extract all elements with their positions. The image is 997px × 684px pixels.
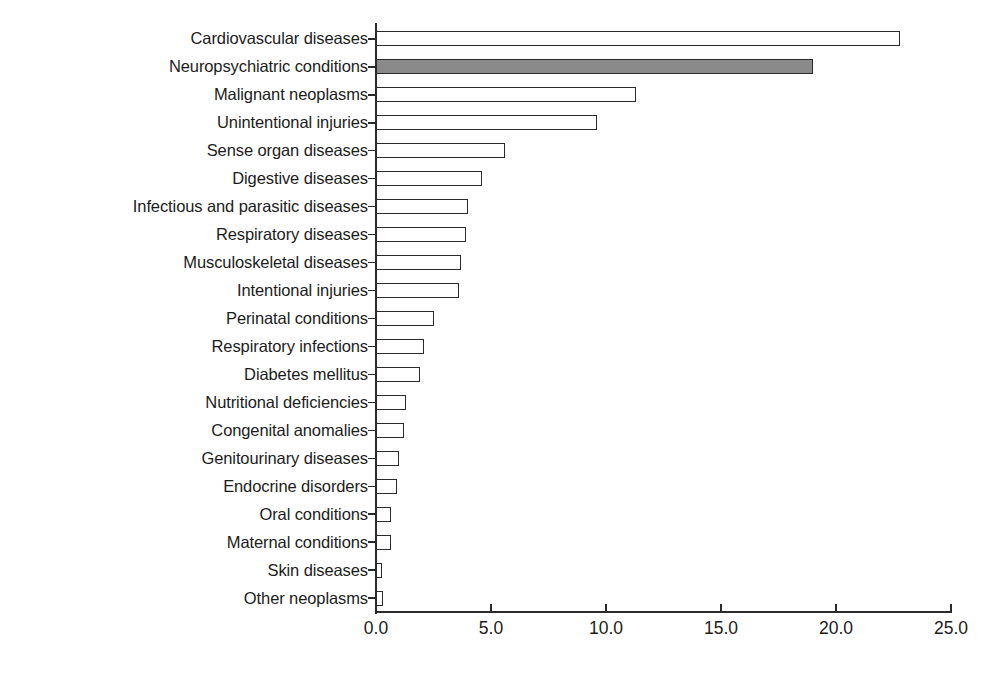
- category-label: Diabetes mellitus: [8, 365, 368, 384]
- category-label: Perinatal conditions: [8, 309, 368, 328]
- y-axis-tick: [368, 262, 376, 263]
- bar: [376, 59, 813, 74]
- x-axis-tick-label: 5.0: [461, 618, 521, 639]
- bar: [376, 479, 397, 494]
- x-axis-line: [375, 611, 952, 613]
- y-axis-tick: [368, 290, 376, 291]
- y-axis-tick: [368, 569, 376, 570]
- category-label: Digestive diseases: [8, 169, 368, 188]
- category-label: Unintentional injuries: [8, 113, 368, 132]
- x-axis-tick: [950, 604, 951, 613]
- bar: [376, 171, 482, 186]
- category-label: Neuropsychiatric conditions: [8, 57, 368, 76]
- x-axis-tick: [490, 604, 491, 613]
- y-axis-tick: [368, 150, 376, 151]
- bar: [376, 199, 468, 214]
- x-axis-tick: [375, 604, 376, 613]
- x-axis-tick-label: 10.0: [576, 618, 636, 639]
- bar: [376, 227, 466, 242]
- y-axis-tick: [368, 234, 376, 235]
- bar: [376, 395, 406, 410]
- category-label: Genitourinary diseases: [8, 449, 368, 468]
- x-axis-tick-label: 25.0: [921, 618, 981, 639]
- bar: [376, 423, 404, 438]
- category-label: Nutritional deficiencies: [8, 393, 368, 412]
- bar: [376, 143, 505, 158]
- category-label: Endocrine disorders: [8, 477, 368, 496]
- x-axis-tick: [605, 604, 606, 613]
- y-axis-tick: [368, 458, 376, 459]
- category-label: Sense organ diseases: [8, 141, 368, 160]
- bar: [376, 31, 900, 46]
- plot-area: [376, 25, 951, 612]
- y-axis-tick: [368, 402, 376, 403]
- y-axis-tick: [368, 346, 376, 347]
- category-label: Musculoskeletal diseases: [8, 253, 368, 272]
- category-label: Intentional injuries: [8, 281, 368, 300]
- y-axis-tick: [368, 430, 376, 431]
- bar: [376, 87, 636, 102]
- category-label: Skin diseases: [8, 561, 368, 580]
- x-axis-tick-label: 0.0: [346, 618, 406, 639]
- category-label: Other neoplasms: [8, 589, 368, 608]
- bar: [376, 283, 459, 298]
- bar: [376, 591, 383, 606]
- x-axis-tick: [720, 604, 721, 613]
- bar: [376, 311, 434, 326]
- bar: [376, 535, 391, 550]
- category-label: Congenital anomalies: [8, 421, 368, 440]
- y-axis-tick: [368, 513, 376, 514]
- x-axis-tick-label: 15.0: [691, 618, 751, 639]
- category-label: Respiratory infections: [8, 337, 368, 356]
- y-axis-tick: [368, 318, 376, 319]
- bar: [376, 451, 399, 466]
- x-axis-tick-label: 20.0: [806, 618, 866, 639]
- y-axis-tick: [368, 597, 376, 598]
- y-axis-tick: [368, 486, 376, 487]
- bar: [376, 367, 420, 382]
- y-axis-tick: [368, 122, 376, 123]
- bar: [376, 507, 391, 522]
- y-axis-tick: [368, 178, 376, 179]
- bar: [376, 115, 597, 130]
- bar: [376, 563, 382, 578]
- y-axis-tick: [368, 66, 376, 67]
- category-label: Infectious and parasitic diseases: [8, 197, 368, 216]
- category-label: Malignant neoplasms: [8, 85, 368, 104]
- y-axis-tick: [368, 38, 376, 39]
- bar: [376, 255, 461, 270]
- category-label: Respiratory diseases: [8, 225, 368, 244]
- x-axis-tick: [835, 604, 836, 613]
- category-label: Cardiovascular diseases: [8, 29, 368, 48]
- y-axis-tick: [368, 94, 376, 95]
- y-axis-category-labels: Cardiovascular diseasesNeuropsychiatric …: [0, 25, 368, 612]
- y-axis-tick: [368, 541, 376, 542]
- bar: [376, 339, 424, 354]
- category-label: Oral conditions: [8, 505, 368, 524]
- y-axis-tick: [368, 206, 376, 207]
- category-label: Maternal conditions: [8, 533, 368, 552]
- y-axis-tick: [368, 374, 376, 375]
- bar-chart: Cardiovascular diseasesNeuropsychiatric …: [0, 0, 997, 684]
